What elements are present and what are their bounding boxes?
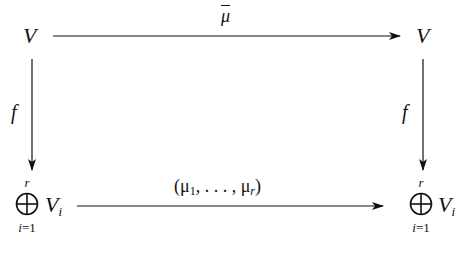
sum-start: =1 [416, 220, 430, 235]
term-base: V [45, 192, 58, 217]
direct-sum-icon [409, 192, 433, 216]
sum-upper-limit: r [13, 176, 41, 189]
term-subscript: i [58, 204, 62, 219]
sum-start: =1 [22, 220, 36, 235]
node-bottom-right-term: Vi [438, 192, 455, 220]
node-bottom-left-term: Vi [45, 192, 62, 220]
label-close: ) [255, 176, 261, 196]
term-base: V [438, 192, 451, 217]
arrows-layer [0, 0, 462, 256]
sum-upper-limit: r [407, 176, 435, 189]
top-arrow-label: μ [221, 6, 230, 27]
term-subscript: i [451, 204, 455, 219]
sum-lower-limit: i=1 [407, 221, 435, 234]
direct-sum-icon [15, 192, 39, 216]
node-bottom-right: r i=1 [407, 176, 435, 238]
node-top-left: V [23, 25, 36, 47]
left-arrow-label: f [11, 101, 17, 124]
label-mid: , . . . , μ [196, 176, 251, 196]
node-top-right: V [416, 25, 429, 47]
right-arrow-label: f [402, 101, 408, 124]
bottom-arrow-label: (μ1, . . . , μr) [174, 176, 261, 199]
node-bottom-left: r i=1 [13, 176, 41, 238]
label-open: (μ [174, 176, 190, 196]
sum-lower-limit: i=1 [13, 221, 41, 234]
